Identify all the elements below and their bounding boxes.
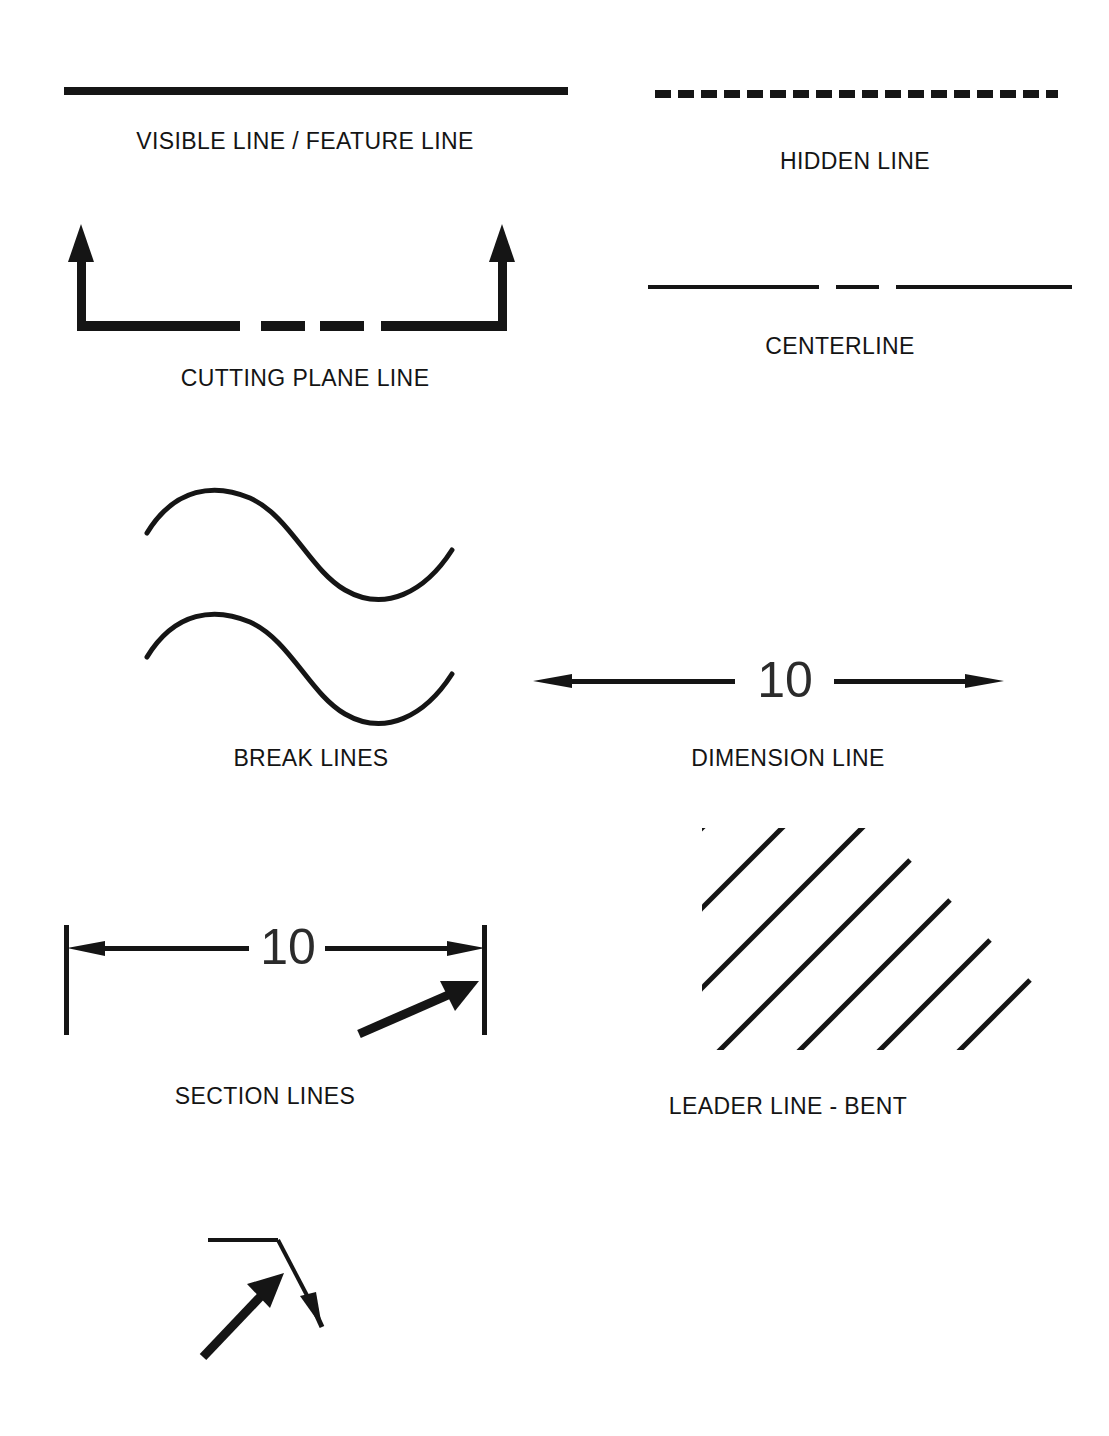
caption-section-lines: LEADER LINE - BENT [669, 1093, 908, 1120]
section-hatch-line [600, 860, 910, 1170]
drawing-sheet: VISIBLE LINE / FEATURE LINE HIDDEN LINE … [0, 0, 1109, 1436]
section-hatch-line [760, 1020, 1070, 1330]
section-hatch-line [720, 980, 1030, 1290]
leader-pointer-arrow [203, 1273, 284, 1357]
leader-line-graphic [0, 0, 620, 1436]
figure-leader-line-bent [0, 0, 620, 1436]
section-hatch-line [640, 900, 950, 1210]
